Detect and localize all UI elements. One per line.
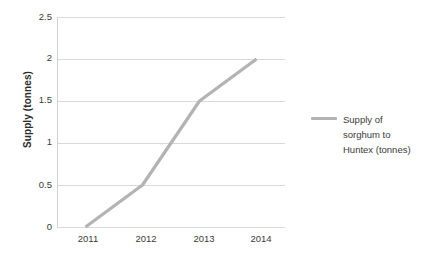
gridlines: [57, 18, 285, 228]
line-chart: Supply (tonnes) 2.5 2 1.5 1 0.5 0 2011 2…: [0, 0, 424, 257]
legend-label-line-2: sorghum to: [343, 127, 411, 142]
legend-label: Supply of sorghum to Huntex (tonnes): [339, 112, 411, 157]
legend-label-line-3: Huntex (tonnes): [343, 142, 411, 157]
legend-swatch-wrap: [311, 112, 339, 120]
legend-label-line-1: Supply of: [343, 112, 411, 127]
legend-item-supply: Supply of sorghum to Huntex (tonnes): [311, 112, 423, 157]
legend-line-swatch-icon: [311, 117, 337, 120]
chart-legend: Supply of sorghum to Huntex (tonnes): [311, 112, 423, 157]
